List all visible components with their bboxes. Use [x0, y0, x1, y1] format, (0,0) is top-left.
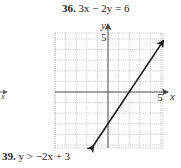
y-tick-5: 5 — [101, 31, 107, 43]
x-axis-label: x — [169, 90, 175, 102]
next-problem: 39. y > −2x + 3 — [2, 150, 70, 162]
x-tick-5: 5 — [157, 91, 163, 103]
next-problem-inequality: y > −2x + 3 — [19, 150, 71, 162]
y-axis-label: y — [100, 19, 106, 31]
graph: x y 5 5 — [0, 0, 181, 168]
grid — [55, 33, 163, 148]
equation-line — [93, 41, 163, 146]
next-problem-number: 39. — [2, 150, 16, 162]
previous-graph-arrow-icon — [0, 90, 8, 95]
